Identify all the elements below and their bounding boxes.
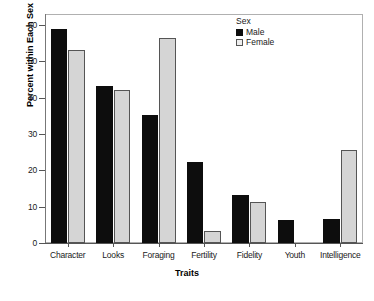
- legend-item-male: Male: [236, 28, 274, 38]
- y-tick: [39, 25, 45, 26]
- bar-foraging-female: [159, 38, 176, 243]
- bar-chart-figure: Percent within Each Sex Traits Sex MaleF…: [0, 0, 374, 301]
- bar-looks-male: [96, 86, 113, 243]
- y-tick-label: 40: [28, 94, 37, 103]
- y-tick-label: 50: [28, 57, 37, 66]
- x-tick: [249, 243, 250, 247]
- x-tick: [295, 243, 296, 247]
- legend-swatch-male: [236, 29, 243, 36]
- x-tick: [159, 243, 160, 247]
- y-tick: [39, 170, 45, 171]
- x-tick: [68, 243, 69, 247]
- bar-group: [272, 14, 317, 243]
- legend-entries: MaleFemale: [236, 28, 274, 48]
- bar-group: [90, 14, 135, 243]
- x-tick-label-intelligence: Intelligence: [300, 250, 374, 260]
- y-tick-label: 30: [28, 130, 37, 139]
- y-tick: [39, 134, 45, 135]
- legend-swatch-female: [236, 39, 243, 46]
- bar-fertility-male: [187, 162, 204, 243]
- bars-container: [45, 14, 363, 243]
- bar-intelligence-female: [341, 150, 358, 243]
- legend-title: Sex: [236, 16, 274, 27]
- bar-group: [136, 14, 181, 243]
- x-tick: [340, 243, 341, 247]
- legend-label-female: Female: [246, 37, 274, 48]
- y-tick: [39, 243, 45, 244]
- x-tick: [113, 243, 114, 247]
- bar-looks-female: [114, 90, 131, 243]
- y-tick: [39, 207, 45, 208]
- y-tick: [39, 61, 45, 62]
- y-tick-label: 0: [32, 239, 37, 248]
- bar-fertility-female: [204, 231, 221, 243]
- y-tick: [39, 98, 45, 99]
- y-tick-label: 20: [28, 166, 37, 175]
- legend: Sex MaleFemale: [236, 16, 274, 48]
- bar-group: [318, 14, 363, 243]
- bar-youth-male: [278, 220, 295, 243]
- y-tick-label: 60: [28, 21, 37, 30]
- bar-group: [181, 14, 226, 243]
- bar-group: [227, 14, 272, 243]
- bar-fidelity-female: [250, 202, 267, 243]
- x-axis-title: Traits: [0, 268, 374, 278]
- legend-item-female: Female: [236, 38, 274, 48]
- y-tick-label: 10: [28, 203, 37, 212]
- bar-fidelity-male: [232, 195, 249, 243]
- x-tick: [204, 243, 205, 247]
- bar-group: [45, 14, 90, 243]
- bar-character-female: [68, 50, 85, 243]
- bar-character-male: [51, 29, 68, 243]
- bar-intelligence-male: [323, 219, 340, 243]
- bar-foraging-male: [142, 115, 159, 243]
